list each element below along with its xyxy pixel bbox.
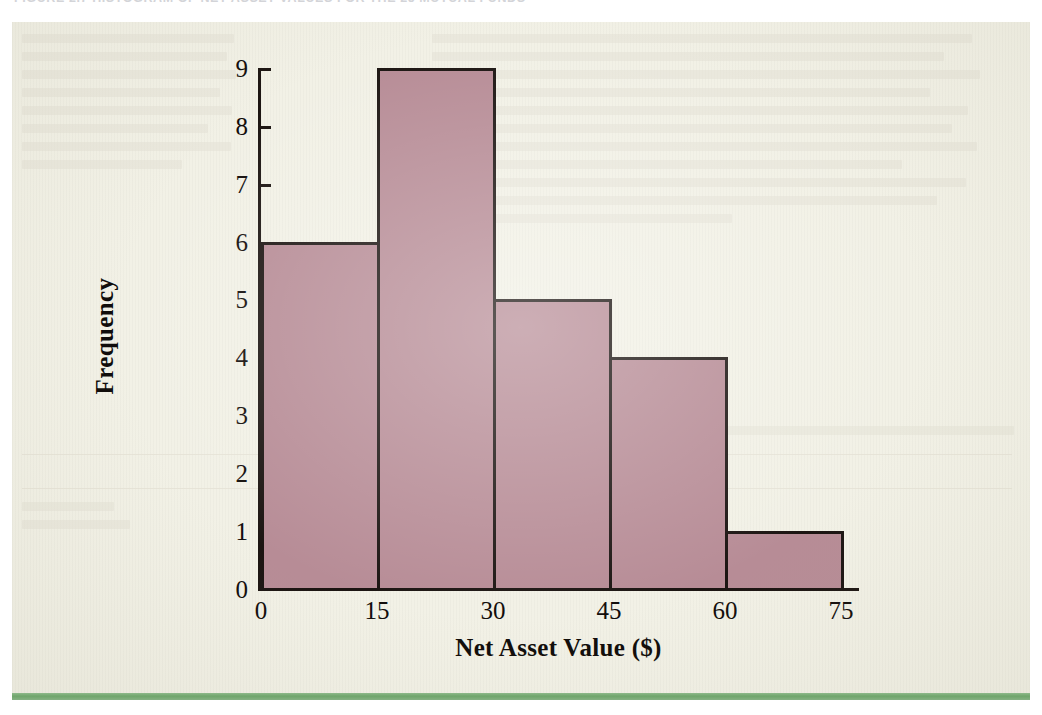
y-tick-label-4: 4 [218,345,248,370]
figure-caption: FIGURE 2.7 HISTOGRAM OF NET ASSET VALUES… [14,0,1024,7]
y-tick-label-9: 9 [218,56,248,81]
y-tick-label-7: 7 [218,172,248,197]
x-tick-label-15: 15 [342,598,412,623]
histogram-bar-3 [609,357,728,591]
y-tick-8 [261,126,271,129]
y-tick-label-2: 2 [218,461,248,486]
histogram-bar-2 [493,299,612,591]
histogram-bar-1 [377,68,496,591]
y-axis-title: Frequency [91,236,119,436]
y-tick-label-3: 3 [218,403,248,428]
y-tick-9 [261,68,271,71]
x-tick-label-0: 0 [226,598,296,623]
x-tick-label-60: 60 [690,598,760,623]
x-tick-label-45: 45 [574,598,644,623]
rule-bottom-green [12,693,1030,700]
figure-panel: 9 8 7 6 5 4 3 2 1 0 0 [12,22,1030,700]
y-tick-label-5: 5 [218,287,248,312]
scanned-page: FIGURE 2.7 HISTOGRAM OF NET ASSET VALUES… [0,0,1042,715]
x-tick-label-30: 30 [458,598,528,623]
y-tick-label-6: 6 [218,230,248,255]
y-tick-label-8: 8 [218,114,248,139]
x-axis-title: Net Asset Value ($) [258,634,859,662]
y-tick-label-1: 1 [218,519,248,544]
y-tick-7 [261,184,271,187]
histogram-bar-0 [261,242,380,591]
histogram-chart: 9 8 7 6 5 4 3 2 1 0 0 [12,22,1030,700]
histogram-bar-4 [725,531,844,591]
x-tick-label-75: 75 [806,598,876,623]
